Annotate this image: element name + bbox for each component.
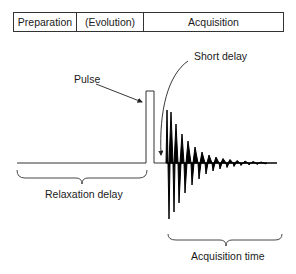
- short-delay-arrow: [161, 61, 188, 155]
- pulse-sequence-diagram: [0, 0, 296, 274]
- fid-signal: [166, 110, 277, 219]
- relaxation-delay-brace: [17, 170, 147, 184]
- pulse-arrow: [96, 84, 142, 102]
- pulse-rectangle: [146, 91, 167, 163]
- acquisition-time-brace: [168, 234, 282, 246]
- relaxation-delay-label: Relaxation delay: [45, 188, 123, 200]
- acquisition-time-label: Acquisition time: [191, 250, 265, 262]
- short-delay-label: Short delay: [194, 50, 247, 62]
- pulse-label: Pulse: [74, 73, 100, 85]
